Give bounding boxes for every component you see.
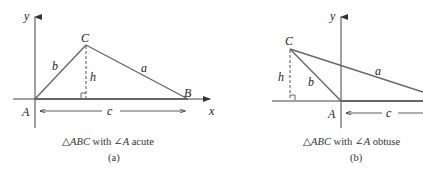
side-a [86, 45, 188, 99]
side-a-label: a [375, 64, 381, 78]
y-axis-label: y [23, 9, 30, 23]
right-angle-mark [81, 93, 86, 98]
y-axis-label: y [329, 9, 336, 23]
side-c-label: c [386, 106, 392, 120]
panel-b: y C A b a h c △ABC with ∠A obtuse (b) [272, 9, 423, 164]
side-a-label: a [141, 61, 147, 75]
caption-a: △ABC with ∠A acute [62, 136, 154, 147]
height-label: h [90, 70, 96, 84]
panel-a: y x C B A b a h c △ABC with ∠A acute (a) [13, 9, 215, 164]
x-axis-label: x [208, 104, 215, 118]
caption-b: △ABC with ∠A obtuse [303, 136, 400, 147]
vertex-a-label: A [21, 105, 30, 119]
side-b-label: b [308, 75, 314, 89]
right-angle-mark [290, 95, 295, 100]
vertex-b-label: B [184, 86, 192, 100]
vertex-a-label: A [327, 107, 336, 121]
sublabel-a: (a) [108, 152, 120, 164]
height-label: h [278, 70, 284, 84]
triangle-diagrams: y x C B A b a h c △ABC with ∠A acute (a)… [0, 0, 423, 171]
side-b [35, 45, 86, 99]
vertex-c-label: C [81, 31, 90, 45]
side-b-label: b [52, 59, 58, 73]
sublabel-b: (b) [350, 152, 363, 164]
side-c-label: c [107, 104, 113, 118]
vertex-c-label: C [285, 34, 294, 48]
